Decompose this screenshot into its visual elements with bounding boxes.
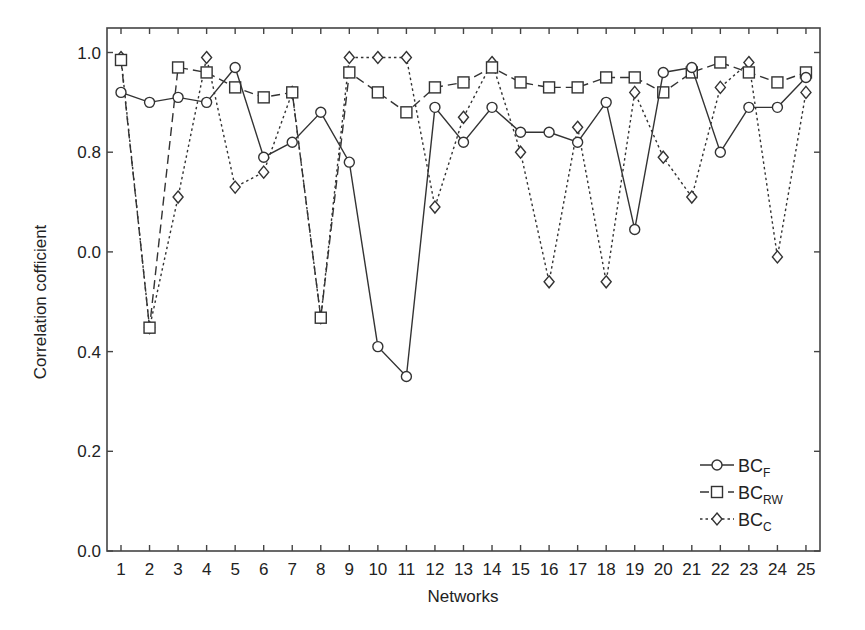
square-marker <box>201 67 212 78</box>
x-tick-label: 19 <box>625 560 644 579</box>
x-tick-label: 6 <box>259 560 268 579</box>
series-line <box>121 57 806 327</box>
y-axis-label: Correlation cofficient <box>31 224 50 379</box>
x-tick-label: 2 <box>145 560 154 579</box>
circle-marker <box>658 67 668 77</box>
x-tick-label: 15 <box>511 560 530 579</box>
x-tick-label: 4 <box>202 560 211 579</box>
legend-item-bc-f: BCF <box>700 456 770 480</box>
diamond-marker <box>573 121 583 133</box>
x-tick-label: 3 <box>173 560 182 579</box>
square-marker <box>515 77 526 88</box>
circle-marker <box>316 107 326 117</box>
x-tick-label: 1 <box>116 560 125 579</box>
x-tick-label: 12 <box>425 560 444 579</box>
x-tick-label: 23 <box>739 560 758 579</box>
x-tick-label: 22 <box>711 560 730 579</box>
y-tick-label: 1.0 <box>77 44 101 63</box>
circle-marker <box>744 102 754 112</box>
series-bc-c <box>116 51 811 333</box>
x-tick-label: 9 <box>345 560 354 579</box>
circle-marker <box>401 372 411 382</box>
x-tick-label: 13 <box>454 560 473 579</box>
square-marker <box>544 82 555 93</box>
x-tick-label: 5 <box>230 560 239 579</box>
x-tick-label: 20 <box>654 560 673 579</box>
series-layer <box>116 51 812 381</box>
y-axis-ticks: 0.00.20.40.00.81.0 <box>77 44 820 562</box>
circle-marker <box>173 92 183 102</box>
square-marker <box>344 67 355 78</box>
x-tick-label: 17 <box>568 560 587 579</box>
square-marker <box>629 72 640 83</box>
square-marker <box>258 92 269 103</box>
circle-marker <box>772 102 782 112</box>
diamond-marker <box>230 181 240 193</box>
circle-marker <box>145 97 155 107</box>
diamond-marker <box>458 111 468 123</box>
circle-marker <box>516 127 526 137</box>
y-tick-label: 0.8 <box>77 143 101 162</box>
circle-marker <box>801 72 811 82</box>
circle-marker <box>430 102 440 112</box>
diamond-marker <box>173 191 183 203</box>
circle-marker <box>573 137 583 147</box>
square-marker <box>487 62 498 73</box>
plot-frame <box>107 28 820 551</box>
square-marker <box>601 72 612 83</box>
x-tick-label: 16 <box>540 560 559 579</box>
x-tick-label: 8 <box>316 560 325 579</box>
diamond-marker <box>430 201 440 213</box>
diamond-marker <box>373 51 383 63</box>
square-marker <box>144 322 155 333</box>
legend-item-bc-c: BCC <box>700 510 772 534</box>
diamond-marker <box>715 81 725 93</box>
square-marker <box>116 54 127 65</box>
x-tick-label: 10 <box>368 560 387 579</box>
circle-marker <box>259 152 269 162</box>
diamond-marker <box>544 276 554 288</box>
square-marker <box>173 62 184 73</box>
legend-label: BCF <box>738 456 770 480</box>
diamond-marker <box>801 86 811 98</box>
legend-item-bc-rw: BCRW <box>700 483 783 507</box>
x-tick-label: 25 <box>796 560 815 579</box>
x-tick-label: 7 <box>288 560 297 579</box>
x-axis-label: Networks <box>428 587 499 606</box>
circle-marker <box>601 97 611 107</box>
y-tick-label: 0.0 <box>77 542 101 561</box>
square-icon <box>712 487 723 498</box>
circle-marker <box>687 62 697 72</box>
circle-icon <box>712 460 722 470</box>
y-tick-label: 0.2 <box>77 442 101 461</box>
series-bc-rw <box>116 54 812 333</box>
square-marker <box>572 82 583 93</box>
plot-border <box>107 28 820 551</box>
diamond-icon <box>712 513 722 525</box>
diamond-marker <box>772 251 782 263</box>
y-tick-label: 0.4 <box>77 343 101 362</box>
diamond-marker <box>202 51 212 63</box>
square-marker <box>429 82 440 93</box>
circle-marker <box>116 87 126 97</box>
square-marker <box>230 82 241 93</box>
diamond-marker <box>259 166 269 178</box>
x-tick-label: 11 <box>398 560 416 579</box>
legend-label: BCRW <box>738 483 783 507</box>
diamond-marker <box>601 276 611 288</box>
diamond-marker <box>344 51 354 63</box>
circle-marker <box>487 102 497 112</box>
legend-label: BCC <box>738 510 772 534</box>
circle-marker <box>230 62 240 72</box>
diamond-marker <box>401 51 411 63</box>
diamond-marker <box>516 146 526 158</box>
circle-marker <box>630 224 640 234</box>
circle-marker <box>202 97 212 107</box>
x-tick-label: 14 <box>483 560 502 579</box>
y-tick-label: 0.0 <box>77 243 101 262</box>
diamond-marker <box>630 86 640 98</box>
x-axis-ticks: 1234567891011121314151617181920212223242… <box>116 28 815 579</box>
square-marker <box>287 87 298 98</box>
circle-marker <box>715 147 725 157</box>
x-tick-label: 21 <box>682 560 701 579</box>
